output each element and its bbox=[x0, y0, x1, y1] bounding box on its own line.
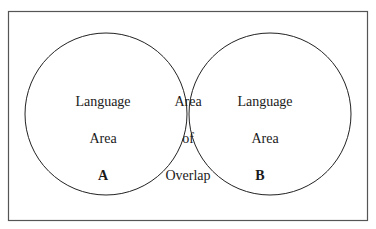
diagram-frame bbox=[9, 12, 368, 221]
label-a-line1: Language bbox=[75, 94, 130, 109]
label-overlap-line2: of bbox=[182, 131, 194, 146]
label-a-letter: A bbox=[98, 168, 109, 183]
circle-language-area-b bbox=[189, 33, 351, 195]
label-b-line2: Area bbox=[251, 131, 279, 146]
label-overlap-line1: Area bbox=[174, 94, 202, 109]
label-b-line1: Language bbox=[237, 94, 292, 109]
venn-diagram: Language Area A Area of Overlap Language… bbox=[0, 0, 376, 229]
label-overlap-line3: Overlap bbox=[165, 168, 210, 183]
label-a-line2: Area bbox=[89, 131, 117, 146]
label-b-letter: B bbox=[255, 168, 264, 183]
